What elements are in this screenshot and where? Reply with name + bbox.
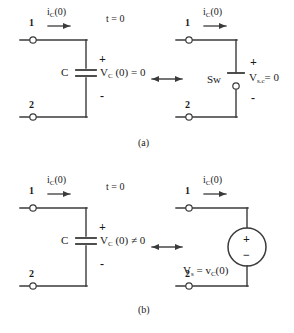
a-right-voltage-subscript: s.c [257,77,265,85]
b-equivalence-head-left [152,244,159,250]
b-left-voltage-symbol: V [100,234,108,246]
caption-a: (a) [138,138,149,148]
b-condition-label: t = 0 [106,182,124,192]
b-source-plus-sign: + [243,233,250,245]
b-left-current-arg: (0) [54,174,66,185]
a-right-switch-contact [233,83,239,89]
b-left-voltage-label: VC (0) ≠ 0 [100,235,145,248]
figure-capacitor-equivalent-circuits: 1 2 iC(0) t = 0 + - C VC (0) = 0 1 2 iC(… [0,0,294,333]
a-right-current-label: iC(0) [203,7,222,19]
b-left-terminal-2-node [30,283,36,289]
b-right-current-arg: (0) [210,174,222,185]
b-right-terminal-1-node [186,205,192,211]
a-condition-label: t = 0 [106,14,124,24]
b-source-subscript: s [191,270,194,278]
b-right-current-arrow-head [219,191,226,197]
b-left-terminal-1-label: 1 [29,186,34,196]
a-left-current-label: iC(0) [47,7,66,19]
a-right-current-arrow-head [219,23,226,29]
a-right-voltage-label: Vs.c= 0 [249,72,279,85]
b-right-terminal-1-label: 1 [185,186,190,196]
a-right-terminal-1-node [186,37,192,43]
a-left-terminal-2-node [30,114,36,120]
circuit-linework [0,0,294,333]
b-left-current-arrow-head [63,191,70,197]
a-left-polarity-plus: + [99,53,106,65]
b-left-voltage-rest: (0) ≠ 0 [115,234,145,246]
a-left-terminal-1-node [30,37,36,43]
a-equivalence-head-right [175,76,182,82]
b-left-current-label: iC(0) [47,175,66,187]
b-right-current-label: iC(0) [203,175,222,187]
a-right-polarity-plus: + [250,56,257,68]
a-right-terminal-2-label: 2 [185,100,190,110]
b-left-terminal-2-label: 2 [29,269,34,279]
b-left-capacitor-label: C [61,235,68,246]
a-left-terminal-2-label: 2 [29,100,34,110]
a-left-voltage-label: VC (0) = 0 [100,67,145,80]
b-right-terminal-2-node [186,283,192,289]
a-right-terminal-2-node [186,114,192,120]
a-equivalence-head-left [152,76,159,82]
a-right-polarity-minus: - [251,92,255,104]
a-right-switch-label: Sw [207,74,221,85]
a-right-voltage-rest: = 0 [265,71,279,83]
a-right-terminal-1-label: 1 [185,18,190,28]
a-right-current-arg: (0) [210,6,222,17]
a-right-voltage-symbol: V [249,71,257,83]
a-left-voltage-rest: (0) = 0 [115,66,145,78]
b-left-voltage-subscript: C [108,240,113,248]
a-left-current-arg: (0) [54,6,66,17]
b-left-terminal-1-node [30,205,36,211]
b-source-eq: = v [196,264,210,276]
a-left-capacitor-label: C [61,67,68,78]
a-left-terminal-1-label: 1 [29,18,34,28]
a-left-polarity-minus: - [100,90,104,102]
a-left-voltage-subscript: C [108,72,113,80]
b-source-value-label: Vs = vC(0) [183,265,228,278]
b-left-polarity-minus: - [100,258,104,270]
b-source-arg: (0) [216,264,229,276]
a-left-current-arrow-head [63,23,70,29]
a-left-voltage-symbol: V [100,66,108,78]
b-source-symbol: V [183,264,191,276]
b-source-minus-sign: − [243,249,250,261]
b-equivalence-head-right [175,244,182,250]
caption-b: (b) [138,305,150,315]
b-left-polarity-plus: + [99,221,106,233]
